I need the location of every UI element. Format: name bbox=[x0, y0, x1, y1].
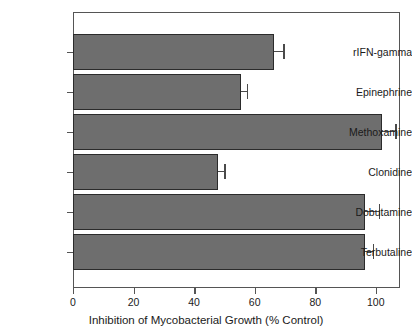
y-tick-mark bbox=[67, 52, 73, 53]
bar-epinephrine bbox=[73, 74, 241, 110]
y-tick-label-rifn-gamma: rIFN-gamma bbox=[346, 46, 412, 58]
y-tick-mark bbox=[67, 132, 73, 133]
error-bar-cap bbox=[283, 44, 284, 59]
y-tick-label-epinephrine: Epinephrine bbox=[346, 86, 412, 98]
y-tick-mark bbox=[67, 212, 73, 213]
y-tick-mark bbox=[67, 172, 73, 173]
error-bar-line bbox=[274, 51, 283, 52]
bar-clonidine bbox=[73, 154, 218, 190]
x-tick-mark bbox=[194, 288, 195, 294]
x-tick-label-20: 20 bbox=[114, 296, 154, 308]
error-bar-cap bbox=[224, 164, 225, 179]
x-tick-mark bbox=[376, 288, 377, 294]
y-tick-mark bbox=[67, 92, 73, 93]
error-bar-cap bbox=[247, 84, 248, 99]
y-tick-label-methoxamine: Methoxamine bbox=[346, 126, 412, 138]
bar-methoxamine bbox=[73, 114, 382, 150]
y-tick-label-dobutamine: Dobutamine bbox=[346, 206, 412, 218]
y-tick-mark bbox=[67, 252, 73, 253]
bar-terbutaline bbox=[73, 234, 365, 270]
x-tick-mark bbox=[255, 288, 256, 294]
x-tick-mark bbox=[73, 288, 74, 294]
x-tick-label-40: 40 bbox=[174, 296, 214, 308]
y-tick-label-clonidine: Clonidine bbox=[346, 166, 412, 178]
x-tick-label-60: 60 bbox=[235, 296, 275, 308]
x-axis-title: Inhibition of Mycobacterial Growth (% Co… bbox=[0, 313, 412, 327]
bar-dobutamine bbox=[73, 194, 365, 230]
bar-rifn-gamma bbox=[73, 34, 274, 70]
x-tick-mark bbox=[134, 288, 135, 294]
x-tick-mark bbox=[315, 288, 316, 294]
bar-chart-figure: rIFN-gammaEpinephrineMethoxamineClonidin… bbox=[0, 0, 412, 333]
y-tick-label-terbutaline: Terbutaline bbox=[346, 246, 412, 258]
x-tick-label-0: 0 bbox=[53, 296, 93, 308]
x-tick-label-80: 80 bbox=[295, 296, 335, 308]
x-tick-label-100: 100 bbox=[356, 296, 396, 308]
